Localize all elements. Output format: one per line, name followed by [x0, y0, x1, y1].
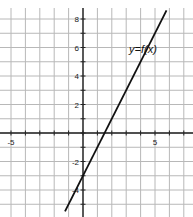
y-tick-label: 4 [75, 72, 80, 81]
axes [0, 8, 193, 217]
function-graph: -558642-2-4 y=f(x) [0, 0, 193, 217]
x-tick-label: 5 [153, 138, 158, 147]
y-tick-label: 6 [75, 44, 80, 53]
y-tick-label: -2 [72, 158, 80, 167]
grid-lines [0, 8, 193, 217]
x-tick-label: -5 [7, 138, 15, 147]
y-tick-label: 8 [75, 15, 80, 24]
function-line [65, 10, 167, 211]
y-tick-label: 2 [75, 101, 80, 110]
function-label: y=f(x) [128, 43, 157, 55]
